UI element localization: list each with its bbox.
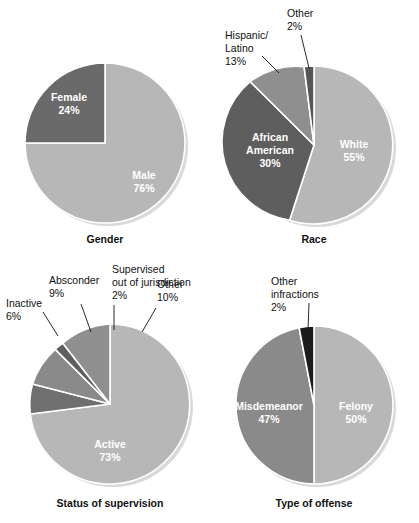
pie-value-inactive: 6%	[6, 310, 21, 322]
pie-label-african-american-line1: African	[252, 131, 288, 143]
pie-value-african-american: 30%	[259, 157, 281, 169]
pie-slice-female[interactable]	[25, 63, 105, 143]
pie-value-absconder: 9%	[49, 287, 64, 299]
pie-label-other-infractions-line1: Other	[271, 275, 298, 287]
pie-value-felony: 50%	[345, 413, 367, 425]
leader-line-inactive	[43, 312, 58, 336]
pie-label-other-infractions-line2: infractions	[271, 288, 319, 300]
pie-value-supervised: 2%	[112, 289, 127, 301]
pie-label-active: Active	[94, 438, 126, 450]
pie-label-other-status: Other	[157, 278, 184, 290]
chart-panel-status: Active 73% Inactive 6% Absconder 9% Supe…	[0, 260, 210, 523]
leader-line-other-status	[142, 308, 156, 332]
pie-value-other-infractions: 2%	[271, 301, 286, 313]
pie-label-supervised-line1: Supervised	[112, 263, 165, 275]
pie-value-other-status: 10%	[157, 291, 178, 303]
pie-label-female: Female	[51, 91, 87, 103]
chart-title-gender: Gender	[87, 233, 124, 245]
pie-label-inactive: Inactive	[6, 297, 42, 309]
leader-line-absconder	[81, 304, 91, 332]
pie-value-active: 73%	[99, 451, 121, 463]
pie-value-misdemeanor: 47%	[258, 413, 280, 425]
pie-label-absconder: Absconder	[49, 274, 100, 286]
chart-title-offense: Type of offense	[276, 497, 353, 509]
pie-label-hispanic-latino-line2: Latino	[225, 42, 254, 54]
pie-value-white: 55%	[343, 151, 365, 163]
chart-title-status: Status of supervision	[57, 497, 164, 509]
pie-value-other-race: 2%	[287, 20, 302, 32]
pie-value-male: 76%	[133, 182, 155, 194]
leader-line-other-race	[301, 35, 309, 68]
pie-label-white: White	[340, 138, 369, 150]
chart-panel-offense: Felony 50% Misdemeanor 47% Other infract…	[209, 260, 419, 523]
pie-value-hispanic-latino: 13%	[225, 55, 246, 67]
pie-chart-figure: Female 24% Male 76% Gender White 55% Afr…	[0, 0, 419, 523]
pie-label-other-race: Other	[287, 7, 314, 19]
chart-title-race: Race	[301, 233, 326, 245]
pie-value-female: 24%	[58, 104, 80, 116]
pie-label-felony: Felony	[339, 400, 373, 412]
pie-label-african-american-line2: American	[246, 144, 294, 156]
chart-panel-race: White 55% African American 30% Hispanic/…	[209, 0, 419, 260]
pie-label-male: Male	[132, 169, 156, 181]
chart-panel-gender: Female 24% Male 76% Gender	[0, 0, 210, 260]
pie-label-hispanic-latino-line1: Hispanic/	[225, 29, 268, 41]
pie-label-misdemeanor: Misdemeanor	[235, 400, 303, 412]
